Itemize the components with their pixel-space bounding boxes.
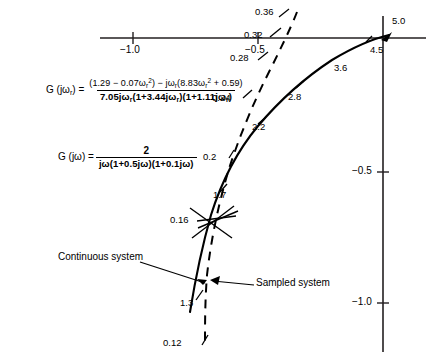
sampled-annotation-arrowhead (210, 276, 220, 285)
equation-2-lhs: G (jω) = (58, 152, 94, 162)
real-axis-tick-label--1.0: −1.0 (120, 45, 140, 55)
point-label-0.24: 0.24 (212, 93, 231, 103)
equation-2-fraction: 2 jω(1+0.5jω)(1+0.1jω) (96, 146, 197, 169)
point-label-2.8: 2.8 (288, 92, 301, 102)
point-label-0.12: 0.12 (163, 338, 182, 348)
leader-0.2 (229, 150, 234, 158)
point-label-0.36: 0.36 (255, 7, 274, 17)
equation-2-numerator: 2 (140, 146, 152, 157)
nyquist-figure: G (jωr) = (1.29 − 0.07ωr2) − jωr(8.83ωr2… (0, 0, 432, 364)
imag-axis-tick-label--1.0: −1.0 (352, 297, 372, 307)
leader-2.8 (296, 81, 304, 88)
point-label-3.6: 3.6 (334, 63, 347, 73)
imag-axis-tick-label--0.5: −0.5 (352, 166, 372, 176)
point-label-0.32: 0.32 (244, 30, 263, 40)
equation-2-denominator: jω(1+0.5jω)(1+0.1jω) (96, 157, 197, 169)
sampled-system-annotation: Sampled system (256, 278, 330, 288)
point-label-0.16: 0.16 (170, 215, 189, 225)
leader-0.36 (279, 9, 289, 17)
equation-1-numerator: (1.29 − 0.07ωr2) − jωr(8.83ωr2 + 0.59) (86, 78, 245, 90)
leader-0.32 (270, 28, 281, 37)
plot-canvas (0, 0, 432, 364)
point-label-1.7: 1.7 (213, 190, 226, 200)
sampled-system-curve (205, 12, 297, 345)
leader-1.3 (196, 290, 203, 300)
point-label-0.2: 0.2 (203, 152, 216, 162)
point-label-5.0: 5.0 (392, 16, 405, 26)
transfer-function-continuous: G (jω) = 2 jω(1+0.5jω)(1+0.1jω) (58, 146, 197, 169)
point-label-2.2: 2.2 (252, 122, 265, 132)
equation-1-lhs: G (jωr) = (46, 85, 84, 96)
sampled-annotation-leader (213, 281, 254, 285)
point-label-1.3: 1.3 (180, 298, 193, 308)
intersection-tick-cluster (190, 206, 238, 238)
continuous-system-annotation: Continuous system (58, 252, 143, 262)
point-label-0.28: 0.28 (230, 53, 249, 63)
continuous-annotation-leader (140, 262, 205, 283)
point-label-4.5: 4.5 (370, 45, 383, 55)
